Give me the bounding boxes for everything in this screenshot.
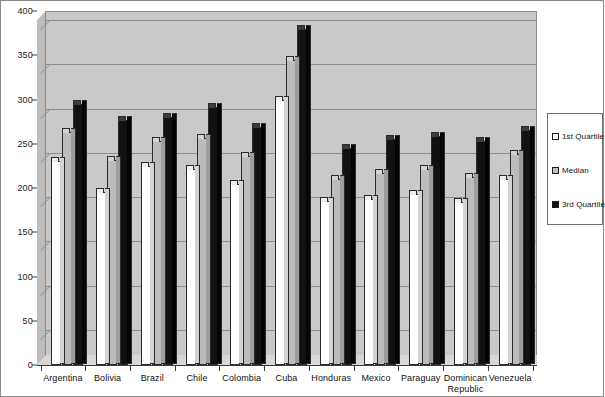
bar-side-face: [474, 173, 479, 364]
bar-side-face: [239, 180, 244, 364]
bar-side-face: [206, 134, 211, 364]
x-axis-tick-label: Brazil: [141, 373, 164, 384]
y-axis-tick-label: 150: [17, 227, 33, 237]
y-axis-tick-label: 200: [17, 183, 33, 193]
bar[interactable]: [364, 199, 374, 365]
bar-front-face: [52, 162, 60, 364]
bar-side-face: [429, 165, 434, 364]
legend-item[interactable]: 1st Quartile: [552, 132, 604, 141]
x-axis-tick-label: Cuba: [276, 373, 298, 384]
bar-group: [313, 11, 358, 365]
bars-layer: [45, 11, 537, 365]
x-axis-tick-mark: [533, 365, 534, 371]
bar-front-face: [365, 200, 373, 364]
x-axis-tick-mark: [264, 365, 265, 371]
bar[interactable]: [499, 179, 509, 365]
bar[interactable]: [186, 169, 196, 365]
y-axis-tick-label: 350: [17, 50, 33, 60]
bar-front-face: [455, 203, 463, 364]
legend-swatch-icon: [552, 201, 559, 208]
bar-side-face: [284, 96, 289, 365]
legend-item[interactable]: Median: [552, 166, 589, 175]
bar-front-face: [231, 185, 239, 364]
bar-side-face: [485, 137, 490, 364]
y-axis: 050100150200250300350400: [1, 1, 37, 397]
bar-group: [179, 11, 224, 365]
bar-side-face: [440, 132, 445, 364]
bar-side-face: [250, 152, 255, 364]
bar-front-face: [321, 202, 329, 364]
bar-group: [269, 11, 314, 365]
bar-side-face: [384, 169, 389, 364]
x-axis-tick-label: Honduras: [311, 373, 351, 384]
x-axis-tick-mark: [175, 365, 176, 371]
bar[interactable]: [51, 161, 61, 365]
bar-side-face: [351, 144, 356, 364]
x-axis-tick-label: Dominican Republic: [438, 373, 492, 395]
bar-front-face: [410, 195, 418, 364]
legend: 1st QuartileMedian3rd Quartile: [547, 113, 603, 225]
bar-side-face: [116, 156, 121, 364]
bar[interactable]: [320, 201, 330, 365]
bar-front-face: [97, 193, 105, 364]
x-axis-tick-label: Venezuela: [489, 373, 532, 384]
bar-side-face: [71, 128, 76, 364]
legend-swatch-icon: [552, 133, 559, 140]
bar-side-face: [373, 195, 378, 364]
x-axis-tick-mark: [219, 365, 220, 371]
y-axis-tick-label: 400: [17, 6, 33, 16]
bar[interactable]: [454, 202, 464, 365]
bar[interactable]: [409, 194, 419, 365]
bar-side-face: [329, 197, 334, 364]
bar[interactable]: [230, 184, 240, 365]
bar[interactable]: [141, 166, 151, 365]
bar-side-face: [519, 150, 524, 364]
bar-side-face: [172, 113, 177, 364]
bar[interactable]: [96, 192, 106, 365]
bar-group: [224, 11, 269, 365]
x-axis-tick-label: Argentina: [43, 373, 82, 384]
x-axis-tick-label: Mexico: [361, 373, 390, 384]
bar-side-face: [161, 137, 166, 364]
bar-group: [492, 11, 537, 365]
bar-group: [403, 11, 448, 365]
bar-side-face: [150, 162, 155, 364]
bar-side-face: [105, 188, 110, 364]
bar-side-face: [217, 103, 222, 364]
bar-side-face: [418, 190, 423, 364]
bar-front-face: [187, 170, 195, 364]
bar[interactable]: [275, 100, 285, 366]
bar-side-face: [295, 56, 300, 364]
bar-front-face: [142, 167, 150, 364]
x-axis-tick-mark: [130, 365, 131, 371]
bar-group: [134, 11, 179, 365]
bar-side-face: [508, 175, 513, 364]
x-axis-tick-mark: [354, 365, 355, 371]
x-axis-tick-label: Colombia: [222, 373, 261, 384]
bar-side-face: [306, 25, 311, 364]
x-axis-tick-mark: [85, 365, 86, 371]
bar-side-face: [195, 165, 200, 364]
x-axis: ArgentinaBoliviaBrazilChileColombiaCubaH…: [37, 365, 537, 397]
bar-side-face: [395, 135, 400, 364]
x-axis-tick-mark: [398, 365, 399, 371]
x-axis-tick-mark: [443, 365, 444, 371]
bar-side-face: [261, 123, 266, 364]
x-axis-tick-label: Bolivia: [94, 373, 121, 384]
bar-group: [90, 11, 135, 365]
bar-front-face: [276, 101, 284, 365]
x-axis-tick-mark: [488, 365, 489, 371]
legend-label: 1st Quartile: [562, 132, 604, 141]
x-axis-tick-label: Chile: [187, 373, 208, 384]
y-axis-tick-label: 100: [17, 272, 33, 282]
y-axis-tick-label: 250: [17, 139, 33, 149]
legend-item[interactable]: 3rd Quartile: [552, 200, 605, 209]
bar-side-face: [340, 175, 345, 364]
x-axis-tick-mark: [41, 365, 42, 371]
legend-swatch-icon: [552, 167, 559, 174]
bar-side-face: [82, 100, 87, 364]
bar-side-face: [127, 116, 132, 364]
legend-label: 3rd Quartile: [562, 200, 605, 209]
bar-group: [45, 11, 90, 365]
